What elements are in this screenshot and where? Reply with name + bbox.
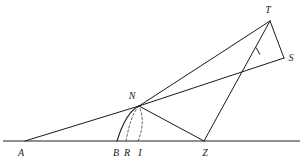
tick-on-segment-N-S [256, 48, 259, 54]
vertex-label-t: T [265, 5, 271, 15]
vertex-label-s: S [289, 53, 294, 63]
segment-T-S [270, 21, 284, 58]
vertex-label-a: A [18, 148, 24, 158]
segments-group [25, 21, 284, 141]
tick-marks-group [256, 48, 259, 54]
segment-N-S [139, 58, 284, 106]
vertex-label-n: N [129, 91, 136, 101]
vertex-label-b: B [113, 148, 119, 158]
geometry-figure: ABRIZNTS [0, 0, 305, 165]
vertex-label-r: R [124, 148, 130, 158]
segment-A-N [25, 106, 139, 141]
vertex-label-i: I [138, 148, 141, 158]
figure-canvas [0, 0, 305, 165]
segment-N-T [139, 21, 270, 106]
segment-N-Z [139, 106, 204, 141]
vertex-label-z: Z [202, 148, 208, 158]
arc-I-N [138, 106, 142, 141]
